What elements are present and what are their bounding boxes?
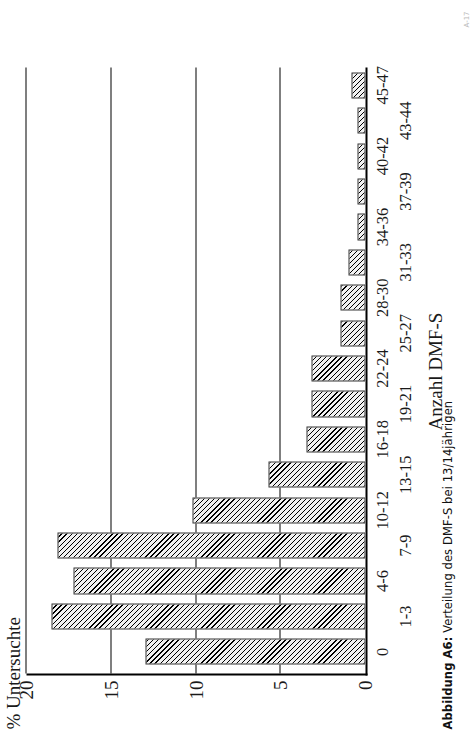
bar	[57, 532, 365, 558]
bar	[357, 178, 365, 204]
bar	[340, 284, 365, 310]
bar-slot: 13-15	[26, 457, 365, 492]
bar	[357, 143, 365, 169]
category-axis-tick-label: 16-18	[372, 420, 392, 459]
figure-caption-prefix: Abbildung A6:	[440, 636, 454, 729]
bar-slot: 37-39	[26, 173, 365, 208]
bar	[340, 320, 365, 346]
bar-slot: 34-36	[26, 209, 365, 244]
bar	[357, 107, 365, 133]
bar-slot: 7-9	[26, 527, 365, 562]
chart-plot-area: 05101520 01-34-67-910-1213-1516-1819-212…	[26, 67, 367, 675]
category-axis-tick-label: 22-24	[372, 349, 392, 388]
bar-slot: 43-44	[26, 103, 365, 138]
value-axis-tick-label: 10	[185, 680, 207, 699]
bar-slot: 10-12	[26, 492, 365, 527]
bar	[192, 497, 365, 523]
bars-group: 01-34-67-910-1213-1516-1819-2122-2425-27…	[26, 67, 365, 673]
bar	[73, 567, 365, 593]
category-axis-tick-label: 37-39	[395, 172, 415, 211]
chart-plot-wrapper: % Untersuchte 05101520 01-34-67-910-1213…	[26, 59, 386, 731]
category-axis-tick-label: 10-12	[372, 490, 392, 529]
category-axis-tick-label: 4-6	[372, 569, 392, 591]
bar-slot: 0	[26, 634, 365, 669]
bar	[351, 72, 365, 98]
figure-root: % Untersuchte 05101520 01-34-67-910-1213…	[0, 0, 475, 753]
category-axis-tick-label: 31-33	[395, 243, 415, 282]
bar-slot: 45-47	[26, 67, 365, 102]
category-axis-tick-label: 43-44	[395, 101, 415, 140]
figure-caption: Abbildung A6: Verteilung des DMF-S bei 1…	[440, 400, 454, 729]
bar	[306, 426, 365, 452]
category-axis-tick-label: 45-47	[372, 66, 392, 105]
category-axis-tick-label: 13-15	[395, 455, 415, 494]
bar-slot: 25-27	[26, 315, 365, 350]
category-axis-tick-label: 25-27	[395, 313, 415, 352]
bar	[357, 213, 365, 239]
bar	[145, 638, 365, 664]
bar-slot: 22-24	[26, 350, 365, 385]
figure-caption-text: Verteilung des DMF-S bei 13/14jährigen	[440, 400, 454, 632]
category-axis-tick-label: 1-3	[395, 605, 415, 627]
bar	[348, 249, 365, 275]
category-axis-tick-label: 34-36	[372, 207, 392, 246]
category-axis-tick-label: 0	[372, 647, 392, 655]
bar-slot: 1-3	[26, 598, 365, 633]
bar-slot: 16-18	[26, 421, 365, 456]
category-axis-tick-label: 7-9	[395, 534, 415, 556]
value-axis-tick-label: 20	[15, 680, 37, 699]
category-axis-tick-label: 28-30	[372, 278, 392, 317]
bar-slot: 4-6	[26, 563, 365, 598]
value-axis-tick-label: 5	[269, 680, 291, 690]
bar	[51, 603, 365, 629]
bar-slot: 31-33	[26, 244, 365, 279]
category-axis-tick-label: 19-21	[395, 384, 415, 423]
bar-slot: 28-30	[26, 280, 365, 315]
value-axis-tick-label: 0	[354, 680, 376, 690]
bar	[268, 461, 365, 487]
value-axis-title: % Untersuchte	[2, 617, 24, 729]
page-mark: A-17	[462, 11, 470, 27]
bar-slot: 40-42	[26, 138, 365, 173]
value-axis-tick-label: 15	[100, 680, 122, 699]
category-axis-tick-label: 40-42	[372, 136, 392, 175]
bar	[311, 355, 365, 381]
bar-slot: 19-21	[26, 386, 365, 421]
bar	[311, 390, 365, 416]
